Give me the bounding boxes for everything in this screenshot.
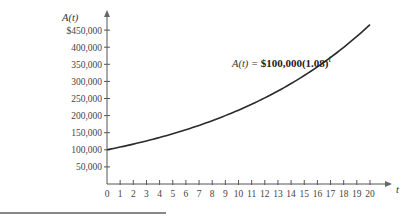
- y-axis-title: A(t): [61, 12, 79, 24]
- y-tick-label: 300,000: [71, 77, 102, 87]
- y-axis-arrow-icon: [104, 10, 110, 17]
- y-tick-label: 200,000: [71, 111, 102, 121]
- x-tick-label: 20: [365, 189, 375, 199]
- x-tick-label: 9: [223, 189, 228, 199]
- x-ticks: 01234567891011121314151617181920: [105, 180, 375, 199]
- divider-rule: [0, 212, 166, 214]
- y-tick-label: 150,000: [71, 128, 102, 138]
- x-tick-label: 7: [197, 189, 202, 199]
- x-tick-label: 12: [260, 189, 270, 199]
- x-axis-title: t: [396, 184, 400, 195]
- x-tick-label: 4: [157, 189, 162, 199]
- x-axis-arrow-icon: [385, 181, 392, 187]
- x-tick-label: 3: [144, 189, 149, 199]
- x-tick-label: 19: [352, 189, 362, 199]
- x-tick-label: 17: [326, 189, 336, 199]
- y-tick-label: 50,000: [76, 162, 102, 172]
- y-tick-label: 400,000: [71, 43, 102, 53]
- formula-annotation: A(t) = $100,000(1.08)t: [231, 53, 333, 70]
- x-tick-label: 18: [339, 189, 349, 199]
- x-tick-label: 16: [313, 189, 323, 199]
- x-tick-label: 1: [118, 189, 123, 199]
- x-tick-label: 10: [234, 189, 244, 199]
- growth-curve: [107, 25, 370, 150]
- y-ticks: 50,000100,000150,000200,000250,000300,00…: [66, 26, 110, 173]
- x-tick-label: 13: [273, 189, 283, 199]
- x-tick-label: 2: [131, 189, 136, 199]
- y-tick-label: $450,000: [66, 26, 102, 36]
- x-tick-label: 6: [184, 189, 189, 199]
- chart: 50,000100,000150,000200,000250,000300,00…: [0, 0, 417, 216]
- x-tick-label: 11: [247, 189, 256, 199]
- x-tick-label: 8: [210, 189, 215, 199]
- x-tick-label: 0: [105, 189, 110, 199]
- y-tick-label: 350,000: [71, 60, 102, 70]
- y-tick-label: 100,000: [71, 145, 102, 155]
- x-tick-label: 15: [300, 189, 310, 199]
- x-tick-label: 5: [170, 189, 175, 199]
- x-tick-label: 14: [286, 189, 296, 199]
- y-tick-label: 250,000: [71, 94, 102, 104]
